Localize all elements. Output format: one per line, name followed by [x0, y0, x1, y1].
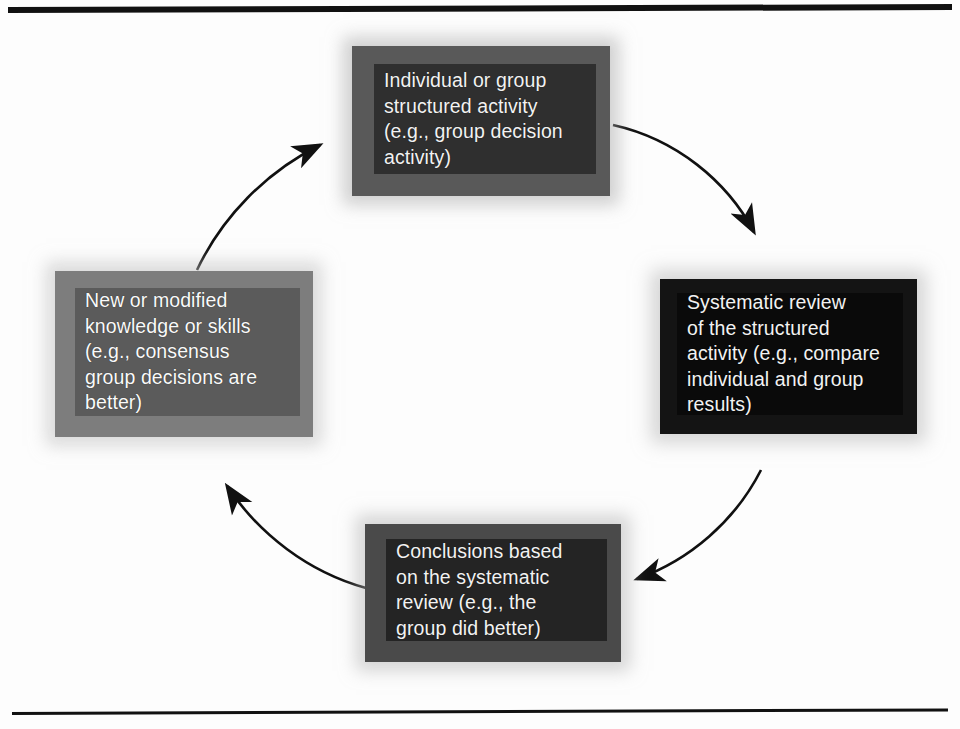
cycle-node-bottom: Conclusions based on the systematic revi… [365, 524, 621, 662]
cycle-node-left-panel: New or modified knowledge or skills (e.g… [75, 288, 300, 416]
arrow-bottom-to-left [227, 486, 366, 588]
cycle-node-top-label: Individual or group structured activity … [374, 68, 563, 170]
arrow-top-to-right [613, 125, 754, 232]
cycle-node-bottom-panel: Conclusions based on the systematic revi… [386, 539, 607, 641]
arrow-left-to-top [197, 145, 320, 270]
cycle-node-bottom-label: Conclusions based on the systematic revi… [386, 539, 562, 641]
top-horizontal-rule [8, 4, 952, 13]
cycle-node-right: Systematic review of the structured acti… [660, 279, 917, 434]
cycle-node-left: New or modified knowledge or skills (e.g… [55, 271, 313, 437]
cycle-node-right-panel: Systematic review of the structured acti… [677, 293, 903, 415]
figure-canvas: Individual or group structured activity … [0, 0, 960, 729]
cycle-node-left-label: New or modified knowledge or skills (e.g… [75, 288, 257, 416]
cycle-node-right-label: Systematic review of the structured acti… [677, 290, 880, 418]
arrow-right-to-bottom [637, 470, 761, 579]
bottom-horizontal-rule [12, 708, 948, 715]
cycle-node-top: Individual or group structured activity … [352, 46, 610, 196]
cycle-node-top-panel: Individual or group structured activity … [374, 64, 596, 174]
